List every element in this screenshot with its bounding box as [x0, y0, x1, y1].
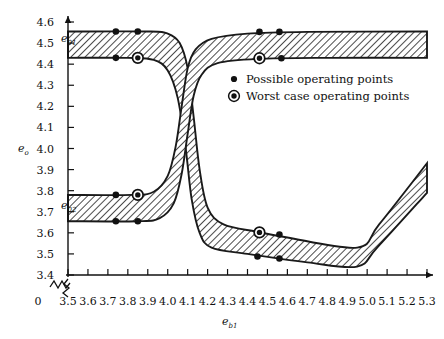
- y-tick-label: 3.8: [37, 185, 55, 198]
- band-layer: [68, 31, 427, 267]
- x-tick-label: 4.7: [299, 295, 317, 308]
- legend-label-worst: Worst case operating points: [246, 89, 409, 103]
- possible-operating-point: [256, 29, 263, 36]
- x-tick-label: 5.2: [398, 295, 416, 308]
- region-lower-band: [68, 31, 427, 221]
- y-tick-label: 4.5: [37, 37, 55, 50]
- x-tick-label: 5.0: [358, 295, 376, 308]
- legend: Possible operating points Worst case ope…: [229, 72, 410, 103]
- x-tick-label: 4.6: [279, 295, 297, 308]
- possible-operating-point: [254, 253, 261, 260]
- x-tick-label: 4.5: [259, 295, 277, 308]
- x-tick-label: 4.9: [338, 295, 356, 308]
- x-tick-label: 4.2: [199, 295, 217, 308]
- legend-label-possible: Possible operating points: [246, 72, 393, 86]
- x-tick-label: 4.0: [159, 295, 177, 308]
- worst-case-operating-point: [135, 55, 140, 60]
- possible-operating-point: [276, 29, 283, 36]
- chart-container: 03.53.63.73.83.94.04.14.24.34.44.54.64.7…: [0, 0, 444, 339]
- x-tick-label: 3.8: [119, 295, 137, 308]
- y-tick-label: 3.9: [37, 164, 55, 177]
- possible-operating-point: [276, 255, 283, 262]
- y-tick-label: 4.4: [37, 58, 55, 71]
- operating-region-plot: 03.53.63.73.83.94.04.14.24.34.44.54.64.7…: [0, 0, 444, 339]
- y-axis-title: eo: [18, 142, 29, 157]
- possible-operating-point: [113, 55, 120, 62]
- x-tick-label: 3.9: [139, 295, 157, 308]
- possible-operating-point: [276, 231, 283, 238]
- y-tick-label: 4.3: [37, 79, 55, 92]
- x-tick-label: 3.7: [99, 295, 117, 308]
- x-axis-break-icon: [50, 281, 70, 288]
- worst-case-operating-point: [135, 192, 140, 197]
- y-tick-label: 3.7: [37, 206, 55, 219]
- possible-operating-point: [135, 28, 142, 35]
- worst-case-operating-point: [257, 230, 262, 235]
- x-tick-label: 5.3: [418, 295, 436, 308]
- legend-filled-dot-icon: [231, 76, 237, 82]
- possible-operating-point: [135, 218, 142, 225]
- x-tick-label: 5.1: [378, 295, 396, 308]
- y-tick-label: 3.4: [37, 269, 55, 282]
- region-upper-band: [68, 31, 427, 267]
- x-tick-label: 4.3: [219, 295, 237, 308]
- y-tick-label: 4.2: [37, 100, 55, 113]
- x-tick-label: 3.5: [59, 295, 77, 308]
- y-tick-label: 3.5: [37, 248, 55, 261]
- y-tick-label: 4.1: [37, 121, 55, 134]
- y-tick-label: 3.6: [37, 227, 55, 240]
- x-tick-label-origin: 0: [35, 295, 42, 308]
- x-axis-title: eb1: [222, 315, 237, 330]
- y-tick-label: 4.0: [37, 143, 55, 156]
- worst-case-operating-point: [257, 56, 262, 61]
- x-tick-label: 3.6: [79, 295, 97, 308]
- x-tick-label: 4.4: [239, 295, 257, 308]
- x-tick-label: 4.8: [319, 295, 337, 308]
- possible-operating-point: [113, 28, 120, 35]
- y-tick-label: 4.6: [37, 16, 55, 29]
- possible-operating-point: [113, 218, 120, 225]
- legend-ringed-dot-icon: [231, 93, 236, 98]
- possible-operating-point: [278, 55, 285, 62]
- possible-operating-point: [113, 192, 120, 199]
- x-tick-label: 4.1: [179, 295, 197, 308]
